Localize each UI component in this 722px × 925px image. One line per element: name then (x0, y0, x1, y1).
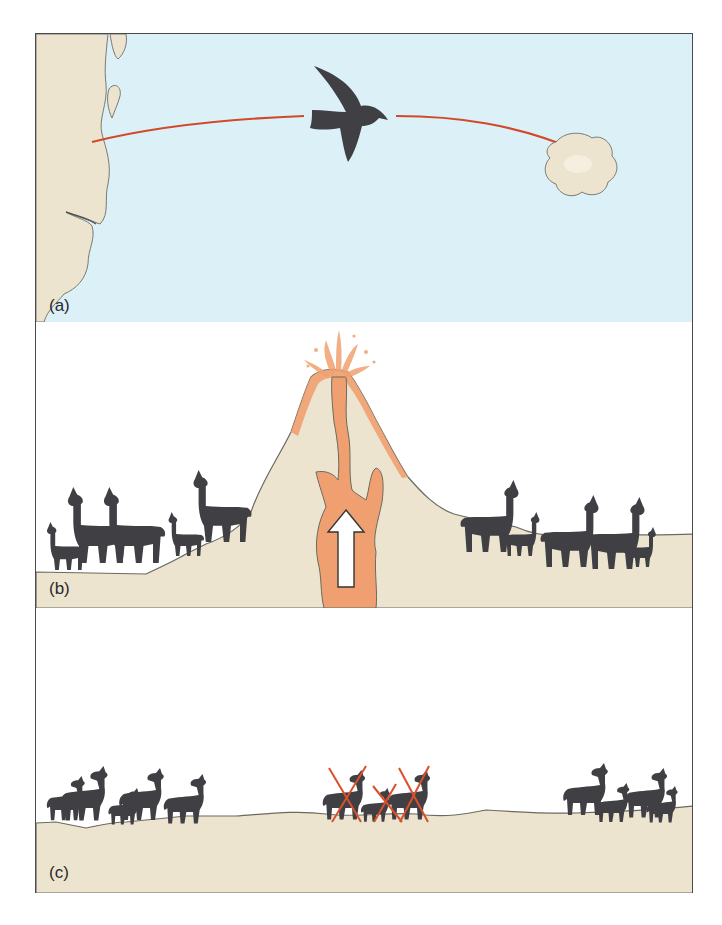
panel-a-dispersal: (a) (36, 34, 692, 323)
speciation-figure: (a) (35, 33, 693, 893)
panel-c-illustration (36, 608, 692, 893)
llama-icon (104, 487, 165, 563)
bird-icon (310, 66, 388, 162)
mainland-islet (108, 85, 121, 118)
deer-icon (119, 768, 164, 820)
panel-label-a: (a) (49, 296, 70, 316)
mainland-islet-small (110, 34, 127, 59)
panel-label-c: (c) (49, 863, 69, 883)
panel-c-extinction: (c) (36, 608, 692, 893)
deer-icon (61, 766, 108, 821)
left-herd (47, 766, 206, 824)
panel-label-b: (b) (49, 579, 70, 599)
eruption-plume (304, 330, 376, 378)
flight-path-left (92, 116, 304, 142)
panel-a-illustration (36, 34, 692, 322)
llama-icon (169, 512, 204, 556)
panel-b-illustration (36, 322, 692, 608)
panel-b-vicariance-volcano: (b) (36, 322, 692, 609)
mainland-coast (36, 34, 109, 322)
llama-icon (194, 470, 252, 542)
